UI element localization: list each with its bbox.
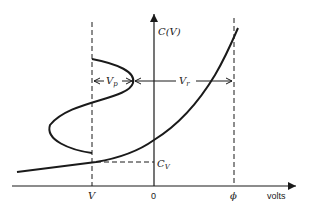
x-tick-v: V	[88, 191, 95, 201]
cv-label: CV	[157, 159, 170, 171]
cv-label-main: C	[157, 158, 165, 169]
vp-label: Vp	[106, 76, 118, 88]
x-tick-phi: ϕ	[230, 191, 237, 201]
vr-label: Vr	[179, 76, 190, 88]
cv-diagram: C(V) Vp Vr CV V 0 ϕ volts	[0, 0, 309, 205]
cv-curve	[17, 28, 238, 172]
y-axis-label: C(V)	[158, 27, 181, 37]
x-tick-zero: 0	[151, 192, 156, 201]
diagram-canvas	[0, 0, 309, 205]
x-axis-unit-label: volts	[267, 192, 286, 201]
vp-label-sub: p	[113, 80, 117, 88]
vr-label-sub: r	[186, 80, 189, 88]
cv-label-sub: V	[165, 163, 170, 171]
loop-curve	[49, 59, 133, 153]
